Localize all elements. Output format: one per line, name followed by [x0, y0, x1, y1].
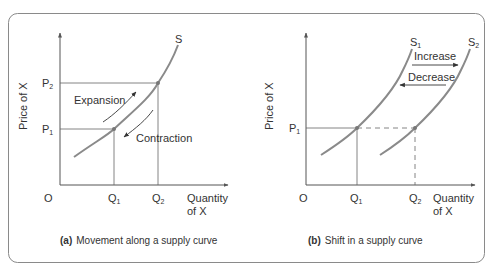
supply-curve-figure: S Expansion Contraction P2 P1 O Q1 Q2 Qu… — [0, 0, 492, 270]
caption-a: (a)Movement along a supply curve — [60, 235, 218, 246]
x-axis-label-line1: Quantity — [187, 192, 228, 204]
contraction-label: Contraction — [136, 132, 192, 144]
caption-b: (b)Shift in a supply curve — [308, 235, 423, 246]
point-p1q1 — [112, 127, 116, 131]
p2-label: P2 — [42, 77, 53, 90]
origin-label: O — [44, 192, 53, 204]
q2-label: Q2 — [409, 192, 422, 205]
x-axis-label-line2: of X — [187, 205, 207, 217]
increase-label: Increase — [414, 50, 456, 62]
q2-label: Q2 — [152, 192, 165, 205]
y-axis-label: Price of X — [263, 82, 275, 130]
panel-b: Increase Decrease S1 S2 P1 O Q1 Q2 Quant… — [263, 33, 479, 246]
panel-a: S Expansion Contraction P2 P1 O Q1 Q2 Qu… — [17, 33, 228, 246]
expansion-label: Expansion — [74, 94, 125, 106]
origin-label: O — [299, 192, 308, 204]
point-p2q2 — [156, 81, 160, 85]
point-s2-p1 — [413, 126, 417, 130]
decrease-label: Decrease — [408, 71, 455, 83]
point-s1-p1 — [355, 126, 359, 130]
q1-label: Q1 — [350, 192, 363, 205]
x-axis-label-line1: Quantity — [433, 192, 474, 204]
q1-label: Q1 — [108, 192, 121, 205]
y-axis-label: Price of X — [17, 82, 29, 130]
p1-label: P1 — [289, 122, 300, 135]
p1-label: P1 — [42, 123, 53, 136]
curve-label-s1: S1 — [410, 36, 421, 49]
supply-curve-s1 — [321, 49, 412, 155]
p1-guide — [306, 128, 357, 185]
curve-label-s2: S2 — [468, 36, 479, 49]
curve-label-s: S — [175, 33, 182, 45]
x-axis-label-line2: of X — [433, 205, 453, 217]
p1-guide — [60, 129, 114, 185]
